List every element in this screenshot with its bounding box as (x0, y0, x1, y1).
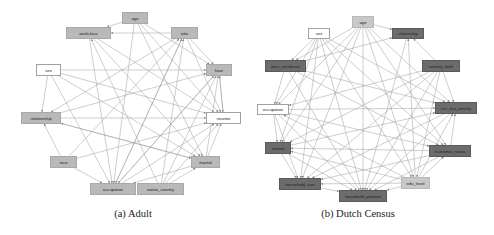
node-label: occupation (263, 107, 283, 112)
dutch-census-node-citizenship: citizenship (392, 28, 424, 39)
edge-country_birth-to-occupation (289, 71, 422, 105)
dutch-census-node-household-size: household_size (279, 178, 321, 190)
node-label: hour (215, 68, 223, 73)
edge-edu_level-to-household_size (321, 183, 401, 184)
edge-age-to-citizenship (374, 25, 392, 30)
edge-sex-to-prev_residence (292, 39, 314, 60)
caption-dutch-census: (b) Dutch Census (321, 208, 395, 219)
dutch-census-node-occupation: occupation (257, 104, 289, 115)
adult-node-race: race (50, 156, 77, 168)
edge-prev_residence-to-citizenship (306, 38, 392, 61)
adult-node-hour: hour (206, 64, 232, 76)
edge-cur_eco_activity-to-household_size (312, 114, 443, 178)
dutch-census-node-household-position: household_position (339, 190, 387, 202)
edge-marital-to-household_size (282, 154, 297, 178)
dutch-census-node-age: age (352, 16, 374, 28)
dutch-census-node-marital: marital (265, 142, 291, 154)
node-label: cur_eco_activity (441, 106, 471, 111)
node-label: marital (199, 160, 212, 165)
dutch-census-node-cur-eco-activity: cur_eco_activity (435, 102, 477, 114)
dutch-census-node-edu-level: edu_level (401, 177, 430, 189)
edge-sex-to-marital (280, 39, 317, 142)
adult-node-marital: marital (191, 156, 220, 168)
node-label: income (217, 116, 231, 121)
edge-edu_level-to-household_position (387, 187, 401, 190)
node-label: age (132, 16, 139, 21)
caption-adult: (a) Adult (114, 208, 152, 219)
dutch-census-node-sex: sex (308, 28, 330, 39)
node-label: household_position (345, 194, 381, 199)
adult-node-income: income (206, 112, 241, 124)
dutch-census-node-economic-status: economic_status (429, 145, 471, 157)
edge-economic_status-to-marital (291, 148, 429, 150)
dutch-census-node-prev-residence: prev_residence (265, 60, 306, 72)
adult-node-workclass: workclass (66, 27, 111, 39)
edge-country_birth-to-citizenship (414, 39, 435, 60)
adult-node-sex: sex (36, 64, 61, 76)
adult-node-edu: edu (171, 27, 198, 39)
node-label: race (59, 160, 67, 165)
node-label: household_size (285, 182, 314, 187)
node-label: country_birth (429, 64, 453, 69)
edge-country_birth-to-household_size (307, 72, 434, 178)
node-label: prev_residence (271, 64, 300, 69)
adult-node-age: age (122, 12, 148, 24)
dutch-census-node-country-birth: country_birth (422, 60, 460, 72)
node-label: workclass (79, 31, 97, 36)
node-label: relationship (30, 116, 51, 121)
node-label: economic_status (434, 149, 465, 154)
node-label: age (360, 20, 367, 25)
node-label: edu_level (407, 181, 425, 186)
node-label: sex (45, 68, 52, 73)
adult-node-occupation: occupation (90, 183, 136, 195)
node-label: marital (272, 146, 285, 151)
node-label: edu (181, 31, 188, 36)
node-label: native_country (147, 187, 174, 192)
edge-household_size-to-household_position (321, 188, 339, 191)
adult-node-native-country: native_country (137, 183, 184, 195)
adult-node-relationship: relationship (21, 112, 61, 124)
node-label: occupation (103, 187, 123, 192)
edge-age-to-economic_status (367, 28, 446, 145)
edge-economic_status-to-cur_eco_activity (451, 114, 455, 145)
node-label: citizenship (398, 31, 418, 36)
edge-age-to-edu_level (365, 28, 414, 177)
edge-sex-to-household_position (320, 39, 361, 190)
edge-edu_level-to-citizenship (408, 39, 415, 177)
node-label: sex (316, 31, 323, 36)
